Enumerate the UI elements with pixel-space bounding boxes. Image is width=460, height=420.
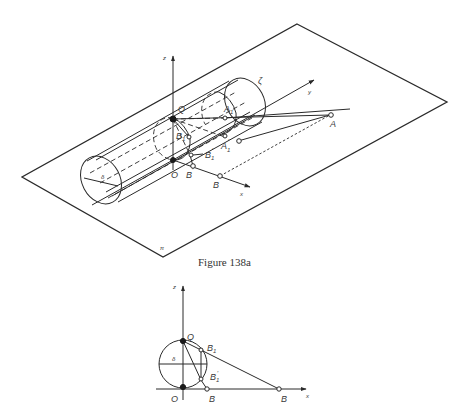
svg-text:′: ′: [228, 138, 230, 144]
label-Q: Q: [178, 104, 185, 114]
point-A1-prime-proj: [237, 139, 242, 144]
figure-138b: z x δ Q O B 1 B 1 ′ B B: [156, 284, 310, 404]
point-B: [218, 174, 223, 179]
point-B-b: [277, 387, 281, 391]
label-pi: π: [160, 245, 165, 251]
label-B-b: B: [281, 394, 287, 404]
svg-text:′: ′: [217, 370, 219, 376]
figure-canvas: π δ ζ z: [0, 0, 460, 420]
point-B1-prime-b: [199, 377, 203, 381]
label-B: B: [213, 180, 219, 190]
label-A1-prime: A 1 ′: [220, 138, 230, 153]
point-B1-prime: [189, 153, 193, 157]
point-O: [171, 158, 176, 163]
plane-pi: [22, 24, 447, 257]
label-O: O: [171, 170, 178, 180]
label-A: A: [329, 119, 336, 129]
label-Q-b: Q: [187, 332, 194, 342]
point-A: [329, 113, 334, 118]
figure-138a: π δ ζ z: [22, 24, 447, 268]
label-B1-prime-b: B 1 ′: [210, 370, 219, 383]
svg-text:′: ′: [212, 147, 214, 153]
label-B-prime: B ′: [186, 167, 194, 180]
label-x-b: x: [305, 393, 310, 399]
figure-caption: Figure 138a: [198, 256, 251, 268]
point-Q: [170, 116, 176, 122]
label-x: x: [239, 191, 244, 197]
label-B1: B 1: [176, 131, 185, 142]
label-zeta: ζ: [258, 76, 263, 86]
label-O-b: O: [171, 394, 178, 404]
svg-text:1: 1: [216, 377, 219, 383]
point-Q-b: [180, 338, 185, 343]
svg-text:1: 1: [211, 155, 214, 161]
label-B1-prime: B 1 ′: [205, 147, 214, 161]
point-A1-prime: [223, 134, 227, 138]
label-A1: A 1: [223, 104, 233, 115]
point-O-b: [180, 384, 185, 389]
point-B1-b: [199, 348, 203, 352]
svg-text:A: A: [223, 104, 230, 114]
svg-text:A: A: [220, 141, 227, 151]
label-B-prime-b: B: [209, 394, 215, 404]
svg-text:1: 1: [230, 109, 233, 115]
label-z: z: [162, 55, 166, 61]
svg-text:1: 1: [182, 136, 185, 142]
axis-y: [173, 80, 314, 160]
label-B1-b: B 1: [207, 343, 216, 354]
point-B-prime-b: [205, 387, 209, 391]
axis-x: [173, 160, 250, 187]
point-B1: [187, 135, 191, 139]
svg-text:1: 1: [213, 348, 216, 354]
svg-text:1: 1: [227, 147, 230, 153]
label-z-b: z: [172, 284, 176, 290]
label-delta-b: δ: [172, 356, 176, 362]
point-A1: [223, 116, 227, 120]
label-y: y: [307, 89, 312, 95]
label-delta: δ: [101, 174, 105, 180]
